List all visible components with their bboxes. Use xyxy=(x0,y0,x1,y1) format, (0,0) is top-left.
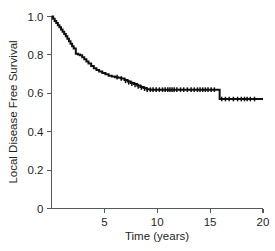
y-tick-label: 0 xyxy=(37,203,43,215)
y-tick-label: 1.0 xyxy=(28,11,44,23)
x-tick-label: 15 xyxy=(204,216,217,228)
x-tick-label: 20 xyxy=(257,216,270,228)
y-tick-label: 0.4 xyxy=(28,126,45,138)
y-tick-label: 0.2 xyxy=(28,164,44,176)
x-tick-label: 5 xyxy=(101,216,107,228)
survival-chart-figure: 1.00.80.60.40.20 5101520 Time (years) Lo… xyxy=(0,0,275,251)
y-tick-label: 0.8 xyxy=(28,49,44,61)
y-tick-label: 0.6 xyxy=(28,87,44,99)
kaplan-meier-plot: 1.00.80.60.40.20 5101520 Time (years) Lo… xyxy=(0,0,275,251)
x-axis-title: Time (years) xyxy=(125,230,189,242)
x-tick-label: 10 xyxy=(151,216,164,228)
y-axis-title: Local Disease Free Survival xyxy=(7,40,19,183)
